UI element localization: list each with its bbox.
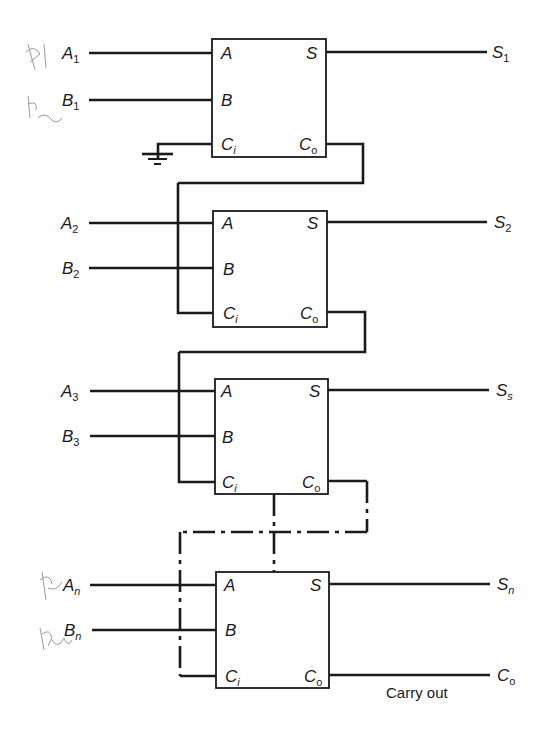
input-label-b2: B2 <box>62 259 79 280</box>
input-label-a3: A3 <box>60 382 78 403</box>
output-label-s3: Ss <box>496 381 513 402</box>
input-label-a2: A2 <box>60 214 78 235</box>
pencil-note-an <box>40 572 62 600</box>
carry-in-wire-2 <box>178 183 213 313</box>
port-s-label: S <box>309 382 321 401</box>
output-label-sn: Sn <box>497 575 514 596</box>
stage-1: A1 B1 A B Ci S Co S1 <box>61 39 509 183</box>
port-b-label: B <box>221 91 232 110</box>
stage-3: A3 B3 A B Ci S Co Ss <box>60 352 513 494</box>
stage-n: An Bn A B Ci S Co Sn Co Carry out <box>62 572 515 701</box>
port-b-label: B <box>225 621 236 640</box>
carry-in-wire-1 <box>158 144 212 158</box>
output-label-carry-out: Co <box>497 666 515 687</box>
port-b-label: B <box>223 260 234 279</box>
input-label-b1: B1 <box>62 91 79 112</box>
pencil-note-a1 <box>26 44 46 70</box>
port-a-label: A <box>221 214 233 233</box>
carry-out-caption: Carry out <box>386 684 449 701</box>
port-b-label: B <box>222 428 233 447</box>
port-s-label: S <box>310 576 322 595</box>
port-a-label: A <box>220 44 232 63</box>
handwritten-annotations <box>26 44 72 650</box>
stage-2: A2 B2 A B Ci S Co S2 <box>60 183 511 352</box>
input-label-bn: Bn <box>64 621 81 642</box>
ripple-carry-adder-diagram: A1 B1 A B Ci S Co S1 A2 B2 A B Ci S Co S… <box>0 0 544 729</box>
input-label-a1: A1 <box>61 44 79 65</box>
output-label-s2: S2 <box>494 213 511 234</box>
input-label-b3: B3 <box>62 427 79 448</box>
port-s-label: S <box>306 44 318 63</box>
carry-in-wire-3 <box>179 352 215 482</box>
output-label-s1: S1 <box>492 43 509 64</box>
port-a-label: A <box>223 576 235 595</box>
port-s-label: S <box>307 214 319 233</box>
pencil-note-b2 <box>28 96 62 122</box>
input-label-an: An <box>62 576 80 597</box>
port-a-label: A <box>220 382 232 401</box>
